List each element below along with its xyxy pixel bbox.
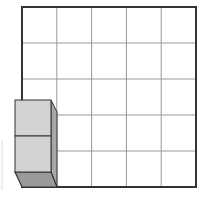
cube-stack	[15, 100, 57, 187]
cube-front-face-top	[15, 100, 51, 136]
cube-front-face-bottom	[15, 136, 51, 172]
grid-diagram	[0, 0, 211, 205]
cube-bottom-face	[15, 172, 57, 187]
